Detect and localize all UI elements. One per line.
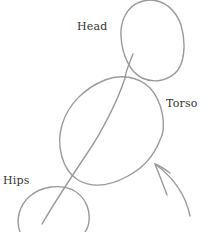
line-of-action xyxy=(42,54,133,224)
sketch-canvas: Head Torso Hips xyxy=(0,0,206,232)
head-label: Head xyxy=(77,20,108,33)
torso-label: Torso xyxy=(166,97,198,110)
sketch-drawing xyxy=(0,0,206,232)
hips-label: Hips xyxy=(3,174,30,187)
head-shape xyxy=(121,0,184,81)
torso-shape xyxy=(60,77,164,185)
hips-shape xyxy=(18,187,89,232)
arrow-head xyxy=(155,164,170,195)
arrow-icon xyxy=(155,164,190,216)
